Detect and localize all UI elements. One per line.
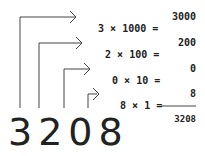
times-sign: × (124, 75, 130, 86)
digit: 0 (112, 75, 118, 86)
result-tens: 0 (156, 63, 196, 75)
equals-sign: = (152, 23, 158, 34)
row-ones: 8 × 1 = (108, 88, 162, 112)
result-ones: 8 (156, 88, 196, 100)
arrow-ones (88, 94, 97, 108)
place-value: 100 (129, 49, 147, 60)
row-tens: 0 × 10 = (100, 63, 160, 87)
digit: 2 (105, 49, 111, 60)
arrow-thousands (20, 17, 76, 108)
place-value: 10 (136, 75, 148, 86)
place-value: 1000 (122, 23, 146, 34)
sum-total: 3208 (156, 114, 196, 124)
equals-sign: = (156, 100, 162, 111)
arrow-hundreds (39, 43, 82, 108)
digit: 3 (98, 23, 104, 34)
equals-sign: = (153, 49, 159, 60)
result-hundreds: 200 (156, 37, 196, 49)
equals-sign: = (154, 75, 160, 86)
row-hundreds: 2 × 100 = (93, 37, 159, 61)
arrow-tens (64, 69, 90, 108)
expanded-number: 3208 (8, 112, 129, 152)
place-value: 1 (144, 100, 150, 111)
times-sign: × (110, 23, 116, 34)
times-sign: × (117, 49, 123, 60)
result-thousands: 3000 (156, 11, 196, 23)
row-thousands: 3 × 1000 = (86, 11, 158, 35)
times-sign: × (132, 100, 138, 111)
